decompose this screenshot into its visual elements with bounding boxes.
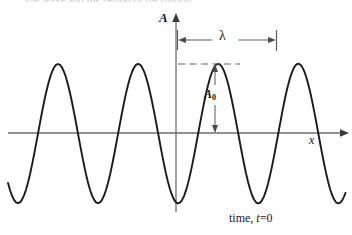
wave-plot-canvas [0, 0, 352, 235]
amplitude-arrowhead-bottom [212, 125, 218, 133]
wavelength-arrowhead-left [178, 37, 186, 43]
figure-caption: time, t=0 [229, 212, 272, 224]
amplitude-label-symbol: A [204, 87, 212, 101]
x-axis-label: x [309, 134, 314, 146]
amplitude-label: A0 [204, 88, 216, 102]
wavelength-arrowhead-right [268, 37, 276, 43]
y-axis-label: A [159, 11, 168, 24]
caption-prefix: time, [229, 211, 256, 225]
amplitude-label-subscript: 0 [212, 93, 216, 102]
wave-diagram-figure: the wave and the period of oscillation A… [0, 0, 352, 235]
wavelength-label: λ [219, 29, 226, 43]
y-axis-arrowhead [172, 13, 180, 22]
x-axis-arrowhead [340, 129, 349, 137]
caption-value: =0 [260, 211, 273, 225]
